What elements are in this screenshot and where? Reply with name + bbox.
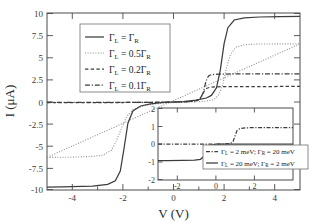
- y-tick-label: 2.5: [32, 75, 44, 85]
- x-tick-label: 2: [222, 193, 227, 203]
- inset-legend-label-0: ΓL = 2 meV; ΓR = 20 meV: [221, 148, 295, 156]
- y-tick-label: 0: [39, 98, 44, 108]
- y-tick-label: -10: [31, 185, 43, 195]
- inset-x-tick-label: -2: [174, 182, 181, 191]
- inset-y-tick-label: 1: [151, 123, 155, 132]
- y-tick-label: 7.5: [32, 31, 44, 41]
- main-legend: ΓL = ΓR ΓL = 0.5ΓR ΓL = 0.2ΓR ΓL = 0.1ΓR: [80, 24, 170, 92]
- y-axis-title: I (μA): [2, 85, 17, 118]
- inset-y-tick-label: 2: [151, 105, 155, 114]
- inset-x-tick-label: 2: [252, 182, 256, 191]
- figure-container: 10 7.5 5 2.5 0 -2.5 -5 -7.5 -10 -4 -2 0 …: [0, 0, 328, 223]
- x-tick-label: 0: [171, 193, 176, 203]
- inset-y-tick-label: -2: [148, 176, 155, 185]
- inset-legend-label-1: ΓL = 20 meV; ΓR = 2 meV: [221, 160, 295, 168]
- y-tick-labels: 10 7.5 5 2.5 0 -2.5 -5 -7.5 -10: [29, 9, 44, 195]
- y-tick-label: 5: [39, 53, 44, 63]
- y-tick-label: -5: [36, 142, 44, 152]
- x-tick-label: -4: [69, 193, 77, 203]
- y-tick-label: 10: [34, 9, 44, 19]
- inset-chart: 2 1 0 -1 -2 -2 0 2 ΓL = 2 meV; ΓR = 20 m…: [148, 105, 308, 192]
- y-tick-label: -7.5: [29, 164, 44, 174]
- x-tick-label: 4: [272, 193, 277, 203]
- inset-legend: ΓL = 2 meV; ΓR = 20 meV ΓL = 20 meV; ΓR …: [203, 145, 308, 169]
- inset-y-tick-label: -1: [148, 158, 155, 167]
- y-tick-label: -2.5: [29, 120, 44, 130]
- inset-y-tick-label: 0: [151, 140, 155, 149]
- inset-y-tick-labels: 2 1 0 -1 -2: [148, 105, 155, 185]
- x-tick-label: -2: [119, 193, 127, 203]
- x-tick-labels: -4 -2 0 2 4: [69, 193, 278, 203]
- inset-x-tick-label: 0: [214, 182, 218, 191]
- iv-characteristic-chart: 10 7.5 5 2.5 0 -2.5 -5 -7.5 -10 -4 -2 0 …: [0, 0, 328, 223]
- x-axis-title: V (V): [158, 206, 188, 221]
